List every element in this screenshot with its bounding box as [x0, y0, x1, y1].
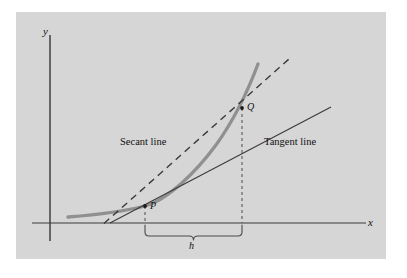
point-p-label: P [150, 200, 156, 211]
diagram-canvas [0, 0, 407, 278]
figure-root: y x P Q h Secant line Tangent line [0, 0, 407, 278]
secant-line-label: Secant line [120, 136, 166, 147]
h-brace [145, 225, 242, 240]
interval-h-label: h [189, 240, 194, 251]
x-axis-label: x [368, 216, 373, 228]
y-axis-label: y [43, 25, 48, 37]
point-p-marker [143, 204, 147, 208]
point-q-label: Q [247, 101, 254, 112]
point-q-marker [240, 106, 244, 110]
tangent-line-label: Tangent line [264, 136, 316, 147]
